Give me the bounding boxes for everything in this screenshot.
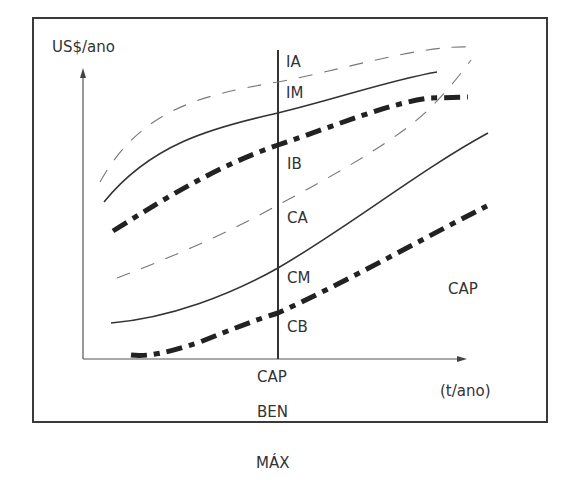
y-axis-label: US$/ano [52, 38, 115, 56]
label-im: IM [286, 84, 303, 102]
label-cm: CM [287, 269, 310, 287]
caption-max: MÁX [256, 453, 289, 472]
x-axis-label: (t/ano) [440, 382, 491, 400]
label-ca: CA [287, 209, 308, 227]
vertical-label-cap: CAP [257, 368, 287, 386]
curve-im [104, 72, 437, 202]
region-label-cap: CAP [448, 280, 478, 298]
y-axis [80, 68, 86, 359]
vertical-label-ben: BEN [257, 403, 288, 421]
cost-benefit-diagram: US$/ano (t/ano) IA IM IB CA CM CB CAP CA… [0, 0, 577, 480]
y-axis-arrow-icon [80, 68, 86, 78]
x-axis-arrow-icon [457, 356, 467, 362]
label-ib: IB [287, 155, 302, 173]
label-cb: CB [287, 318, 308, 336]
label-ia: IA [286, 53, 301, 71]
